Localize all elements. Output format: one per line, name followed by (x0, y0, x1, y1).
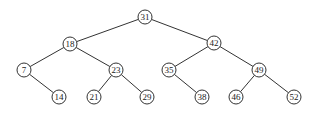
tree-edge-49-52 (265, 74, 289, 92)
tree-edge-18-23 (76, 47, 110, 66)
tree-node-38: 38 (195, 90, 209, 104)
tree-node-46: 46 (229, 90, 243, 104)
node-label: 14 (55, 92, 65, 102)
node-label: 21 (90, 92, 99, 102)
node-label: 23 (112, 65, 122, 75)
tree-node-31: 31 (138, 10, 152, 24)
tree-node-49: 49 (252, 63, 266, 77)
tree-node-29: 29 (140, 90, 154, 104)
binary-tree-diagram: 3118427233549142129384652 (0, 0, 314, 113)
node-label: 49 (255, 65, 265, 75)
tree-node-14: 14 (52, 90, 66, 104)
tree-node-21: 21 (87, 90, 101, 104)
tree-edge-42-49 (220, 47, 253, 67)
tree-node-18: 18 (63, 37, 77, 51)
tree-edge-31-18 (77, 19, 139, 41)
tree-node-52: 52 (287, 90, 301, 104)
tree-edge-23-21 (98, 75, 111, 91)
tree-edge-42-35 (175, 47, 208, 67)
node-label: 35 (165, 65, 175, 75)
tree-node-23: 23 (109, 63, 123, 77)
tree-edge-49-46 (241, 75, 255, 91)
tree-node-7: 7 (17, 63, 31, 77)
node-label: 42 (210, 38, 219, 48)
node-label: 18 (66, 39, 76, 49)
node-label: 31 (141, 12, 150, 22)
node-label: 52 (290, 92, 299, 102)
tree-nodes: 3118427233549142129384652 (17, 10, 301, 104)
node-label: 46 (232, 92, 242, 102)
tree-edge-35-38 (174, 74, 196, 92)
tree-node-35: 35 (162, 63, 176, 77)
node-label: 7 (22, 65, 27, 75)
tree-edges (30, 19, 289, 92)
node-label: 29 (143, 92, 153, 102)
tree-node-42: 42 (207, 36, 221, 50)
node-label: 38 (198, 92, 208, 102)
tree-edge-23-29 (121, 75, 141, 93)
tree-edge-31-42 (152, 19, 208, 40)
tree-edge-7-14 (30, 74, 54, 92)
tree-edge-18-7 (30, 47, 64, 66)
